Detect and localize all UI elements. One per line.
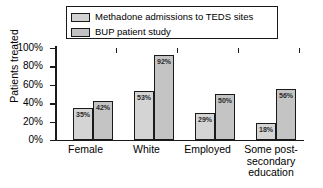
bar-postsecondary-series-2: 56% — [276, 89, 296, 141]
x-tick-0 — [55, 48, 56, 53]
y-tick-label-80: 80% — [23, 61, 43, 71]
x-category-label-white: White — [116, 144, 177, 156]
bar-employed-series-2: 50% — [215, 94, 235, 140]
legend-swatch-icon-series-2 — [71, 28, 90, 37]
x-tick-2 — [177, 48, 178, 53]
x-category-label-employed: Employed — [177, 144, 238, 156]
y-tick-0: 0% — [50, 140, 55, 141]
x-tick-1 — [116, 48, 117, 53]
legend-swatch-icon-series-1 — [71, 13, 90, 22]
y-tick-label-40: 40% — [23, 98, 43, 108]
bar-value-white-series-1: 53% — [135, 94, 153, 101]
legend-item-methadone: Methadone admissions to TEDS sites — [71, 10, 273, 24]
bar-value-white-series-2: 92% — [155, 58, 173, 65]
y-tick-40: 40% — [50, 103, 55, 104]
bar-value-female-series-1: 35% — [74, 111, 92, 118]
y-tick-20: 20% — [50, 122, 55, 123]
y-tick-80: 80% — [50, 66, 55, 67]
y-tick-label-60: 60% — [23, 80, 43, 90]
y-tick-label-0: 0% — [29, 135, 43, 145]
bar-female-series-2: 42% — [93, 101, 113, 140]
bar-value-employed-series-2: 50% — [216, 97, 234, 104]
bar-white-series-1: 53% — [134, 91, 154, 140]
y-tick-label-20: 20% — [23, 117, 43, 127]
bar-value-postsecondary-series-2: 56% — [277, 92, 295, 99]
y-tick-label-100: 100% — [17, 43, 43, 53]
bar-postsecondary-series-1: 18% — [256, 123, 276, 140]
bar-white-series-2: 92% — [154, 55, 174, 140]
x-category-label-white-line-1: White — [116, 144, 177, 156]
y-axis-title: Patients treated — [8, 23, 20, 109]
legend-label-series-1: Methadone admissions to TEDS sites — [95, 12, 253, 22]
plot-area: 0% 20% 40% 60% 80% 100% 35% 42% — [55, 48, 302, 140]
x-category-label-female: Female — [55, 144, 116, 156]
x-category-label-postsecondary-line-1: Some post- — [238, 144, 304, 156]
bar-value-postsecondary-series-1: 18% — [257, 126, 275, 133]
x-category-label-employed-line-1: Employed — [177, 144, 238, 156]
bar-female-series-1: 35% — [73, 108, 93, 140]
bar-chart: Methadone admissions to TEDS sites BUP p… — [0, 0, 323, 188]
x-tick-4 — [299, 48, 300, 53]
y-tick-60: 60% — [50, 85, 55, 86]
x-category-label-female-line-1: Female — [55, 144, 116, 156]
chart-legend: Methadone admissions to TEDS sites BUP p… — [66, 6, 278, 39]
x-tick-3 — [238, 48, 239, 53]
legend-item-bup: BUP patient study — [71, 25, 273, 39]
bar-value-employed-series-1: 29% — [196, 116, 214, 123]
bar-value-female-series-2: 42% — [94, 104, 112, 111]
legend-label-series-2: BUP patient study — [95, 27, 171, 37]
x-category-label-postsecondary: Some post- secondary education — [238, 144, 304, 179]
x-category-label-postsecondary-line-3: education — [238, 167, 304, 179]
bar-employed-series-1: 29% — [195, 113, 215, 140]
